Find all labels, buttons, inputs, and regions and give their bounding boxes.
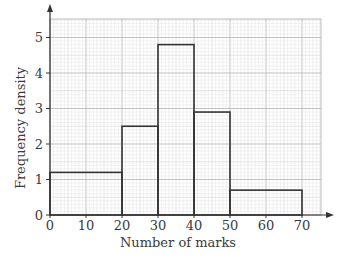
x-tick-label: 0: [46, 218, 54, 233]
x-axis-label: Number of marks: [120, 235, 236, 250]
y-tick-label: 1: [35, 172, 43, 187]
x-tick-label: 30: [150, 218, 167, 233]
x-tick-label: 60: [258, 218, 275, 233]
x-tick-labels: 010203040506070: [46, 215, 310, 233]
x-tick-label: 50: [222, 218, 239, 233]
x-tick-label: 20: [114, 218, 131, 233]
x-tick-label: 40: [186, 218, 203, 233]
y-tick-label: 0: [35, 208, 43, 223]
y-axis-arrow-icon: [47, 4, 53, 12]
y-tick-label: 4: [35, 66, 43, 81]
y-tick-label: 5: [35, 30, 43, 45]
y-axis-label: Frequency density: [13, 66, 28, 189]
y-tick-label: 2: [35, 137, 43, 152]
y-tick-labels: 012345: [35, 30, 50, 223]
x-tick-label: 70: [294, 218, 311, 233]
y-tick-label: 3: [35, 101, 43, 116]
histogram-chart: 010203040506070 012345 Number of marks F…: [0, 0, 352, 266]
x-tick-label: 10: [78, 218, 95, 233]
x-axis-arrow-icon: [326, 212, 334, 218]
grid: [50, 19, 321, 215]
